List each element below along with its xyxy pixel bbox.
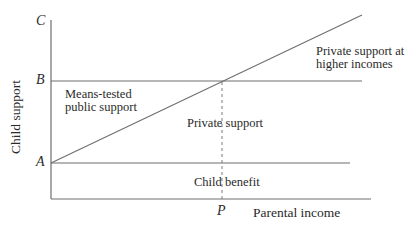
diagram-canvas: [0, 0, 410, 227]
x-tick-p: P: [217, 204, 226, 219]
private-support-label: Private support: [187, 117, 263, 130]
means-tested-label-line2: public support: [65, 101, 137, 114]
y-tick-a: A: [36, 155, 45, 170]
y-tick-b: B: [36, 73, 45, 88]
child-benefit-label: Child benefit: [194, 176, 260, 189]
y-tick-c: C: [36, 14, 45, 29]
x-axis-title: Parental income: [253, 206, 340, 220]
private-higher-incomes-label-line2: higher incomes: [316, 58, 393, 71]
y-axis-title: Child support: [9, 80, 23, 154]
